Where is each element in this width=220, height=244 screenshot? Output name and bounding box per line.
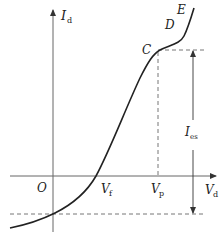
svg-text:f: f [109,189,113,198]
iv-characteristic-diagram: I d V d O V f V p I es C D E [0,0,220,244]
y-axis-label: I d [60,8,72,25]
svg-text:I: I [60,8,67,23]
svg-text:es: es [190,133,198,141]
origin-label: O [37,181,47,195]
svg-text:d: d [67,16,72,25]
x-axis-label: V d [205,183,218,199]
point-e-label: E [176,3,186,17]
point-c-label: C [142,43,151,57]
vf-label: V f [101,182,113,198]
svg-text:p: p [159,189,164,198]
svg-text:d: d [213,190,218,199]
point-d-label: D [164,18,175,32]
vp-label: V p [151,182,164,198]
ies-label: I es [184,125,198,141]
